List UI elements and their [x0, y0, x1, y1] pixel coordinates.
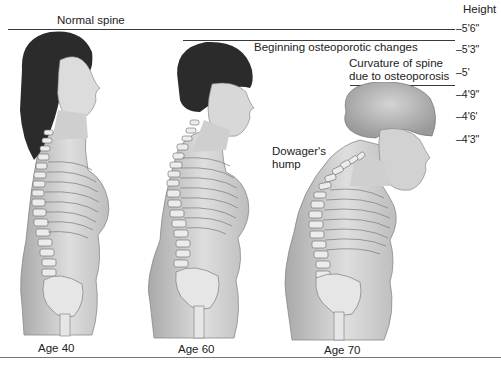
figure-age-40	[0, 30, 140, 340]
height-tick-5-0: –5'	[456, 66, 470, 78]
age-label-40: Age 40	[38, 342, 74, 354]
height-tick-4-6: –4'6'	[456, 110, 478, 122]
age-label-60: Age 60	[178, 343, 214, 355]
height-tick-4-9: –4'9"	[456, 88, 479, 100]
figure-age-70	[280, 82, 455, 342]
curvature-label-line1: Curvature of spine	[349, 57, 443, 70]
normal-spine-label: Normal spine	[57, 14, 125, 27]
bottom-border	[0, 357, 501, 358]
height-scale-title: Height	[463, 3, 496, 15]
figure-age-60	[140, 40, 280, 340]
height-tick-4-3: –4'3"	[456, 133, 479, 145]
height-tick-5-6: –5'6"	[456, 22, 479, 34]
age-label-70: Age 70	[324, 344, 360, 356]
height-tick-5-3: –5'3"	[456, 43, 479, 55]
